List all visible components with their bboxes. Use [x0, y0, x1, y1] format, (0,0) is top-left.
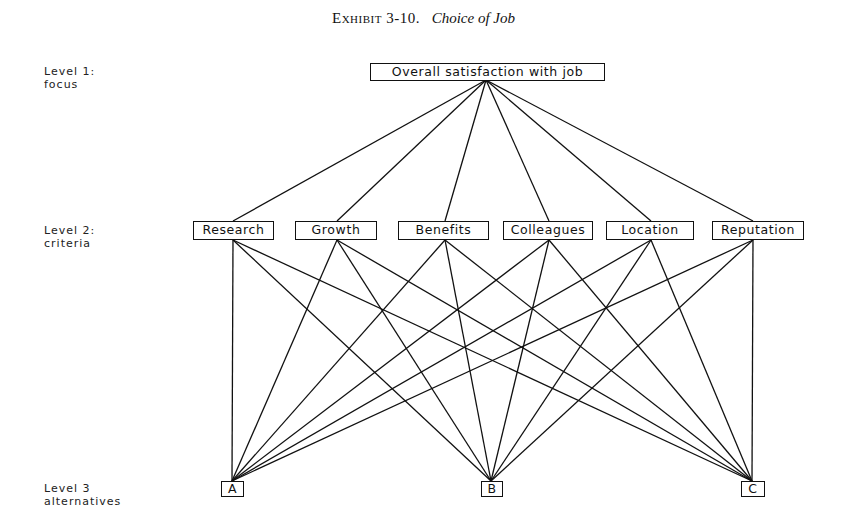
criterion-growth: Growth: [295, 221, 377, 240]
level-3-label: Level 3 alternatives: [44, 482, 121, 508]
criterion-colleagues: Colleagues: [503, 221, 593, 240]
level-3-subtitle: alternatives: [44, 495, 121, 508]
level-2-title: Level 2:: [44, 224, 95, 237]
alternative-a: A: [221, 481, 244, 497]
criterion-location: Location: [606, 221, 694, 240]
level-1-label: Level 1: focus: [44, 65, 95, 91]
level-2-subtitle: criteria: [44, 237, 95, 250]
level-1-title: Level 1:: [44, 65, 95, 78]
level-3-title: Level 3: [44, 482, 121, 495]
alternative-b: B: [481, 481, 503, 497]
criterion-research: Research: [193, 221, 274, 240]
alternative-c: C: [741, 481, 765, 497]
level-1-subtitle: focus: [44, 78, 95, 91]
criterion-reputation: Reputation: [712, 221, 804, 240]
level-2-label: Level 2: criteria: [44, 224, 95, 250]
criterion-benefits: Benefits: [398, 221, 489, 240]
focus-node: Overall satisfaction with job: [370, 63, 605, 81]
